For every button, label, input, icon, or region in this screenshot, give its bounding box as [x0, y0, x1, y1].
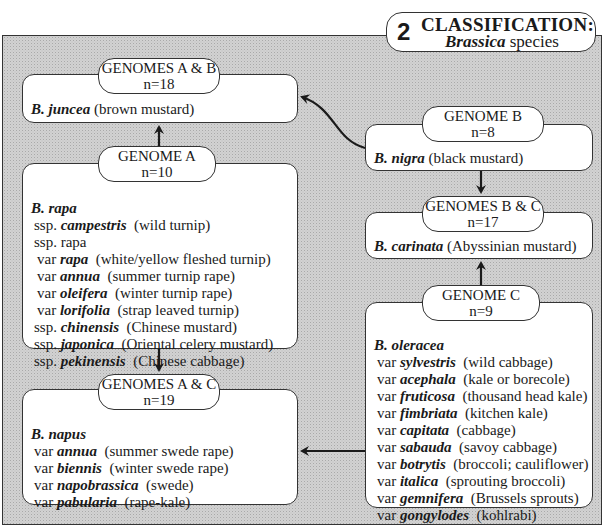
variety-item: var gongylodes (kohlrabi) — [374, 507, 589, 524]
node-species-line: B. carinata (Abyssinian mustard) — [374, 238, 577, 255]
node-label-genomes-ac: GENOMES A & C n=19 — [98, 374, 220, 410]
node-content: B. oleracea var sylvestris (wild cabbage… — [374, 337, 589, 524]
species-name: B. rapa — [31, 200, 273, 217]
variety-item: var botrytis (broccoli; cauliflower) — [374, 456, 589, 473]
node-species-line: B. nigra (black mustard) — [374, 150, 523, 167]
genome-label: GENOME B — [423, 108, 543, 124]
variety-rank: var — [377, 422, 400, 438]
variety-name: rapa — [60, 251, 88, 267]
variety-common-name: (cabbage) — [449, 422, 516, 438]
variety-rank: var — [377, 354, 400, 370]
variety-common-name: (strap leaved turnip) — [110, 302, 239, 318]
variety-name: fimbriata — [400, 405, 458, 421]
variety-name: capitata — [400, 422, 449, 438]
variety-item: var lorifolia (strap leaved turnip) — [31, 302, 273, 319]
variety-rank: ssp. rapa — [34, 234, 87, 250]
variety-rank: ssp. — [34, 336, 61, 352]
variety-item: ssp. chinensis (Chinese mustard) — [31, 319, 273, 336]
chromosome-count: n=17 — [423, 214, 543, 230]
variety-name: fruticosa — [400, 388, 455, 404]
variety-item: var pabularia (rape-kale) — [31, 494, 234, 511]
node-label-genomes-ab: GENOMES A & B n=18 — [98, 58, 220, 94]
chromosome-count: n=10 — [99, 164, 215, 180]
node-box-genome-c: B. oleracea var sylvestris (wild cabbage… — [365, 302, 593, 508]
variety-item: var annua (summer turnip rape) — [31, 268, 273, 285]
species-name: B. nigra — [374, 150, 425, 166]
variety-name: sabauda — [400, 439, 452, 455]
variety-common-name: (kale or borecole) — [456, 371, 570, 387]
variety-item: var gemnifera (Brussels sprouts) — [374, 490, 589, 507]
variety-name: sylvestris — [400, 354, 456, 370]
variety-item: var capitata (cabbage) — [374, 422, 589, 439]
variety-common-name: (kohlrabi) — [469, 507, 536, 523]
variety-item: var napobrassica (swede) — [31, 477, 234, 494]
title-subtitle: Brassica species — [445, 33, 559, 51]
variety-item: ssp. campestris (wild turnip) — [31, 217, 273, 234]
variety-common-name: (wild turnip) — [127, 217, 211, 233]
genome-label: GENOMES A & B — [99, 60, 219, 76]
node-species-line: B. juncea (brown mustard) — [31, 101, 194, 118]
variety-name: gongylodes — [400, 507, 469, 523]
variety-common-name: (winter swede rape) — [102, 460, 229, 476]
chromosome-count: n=19 — [99, 392, 219, 408]
variety-rank: var — [377, 456, 400, 472]
chromosome-count: n=9 — [423, 303, 539, 319]
genome-label: GENOMES B & C — [423, 198, 543, 214]
variety-rank: var — [377, 473, 400, 489]
variety-rank: var — [37, 285, 60, 301]
variety-common-name: (Oriental celery mustard) — [114, 336, 273, 352]
variety-common-name: (sprouting broccoli) — [438, 473, 565, 489]
variety-name: gemnifera — [400, 490, 463, 506]
species-name: B. carinata — [374, 238, 443, 254]
variety-item: var sylvestris (wild cabbage) — [374, 354, 589, 371]
variety-rank: ssp. — [34, 319, 61, 335]
node-label-genome-a: GENOME A n=10 — [98, 146, 216, 182]
variety-item: var acephala (kale or borecole) — [374, 371, 589, 388]
variety-name: pabularia — [57, 494, 117, 510]
variety-name: annua — [60, 268, 100, 284]
variety-list: var sylvestris (wild cabbage)var acephal… — [374, 354, 589, 524]
variety-list: var annua (summer swede rape)var biennis… — [31, 443, 234, 511]
variety-item: var fimbriata (kitchen kale) — [374, 405, 589, 422]
variety-item: ssp. japonica (Oriental celery mustard) — [31, 336, 273, 353]
variety-name: botrytis — [400, 456, 446, 472]
species-name: B. juncea — [31, 101, 90, 117]
variety-rank: var — [34, 443, 57, 459]
title-badge: 2 CLASSIFICATION: Brassica species — [386, 12, 596, 52]
variety-rank: var — [377, 371, 400, 387]
variety-common-name: (thousand head kale) — [455, 388, 587, 404]
variety-common-name: (summer swede rape) — [97, 443, 234, 459]
variety-name: pekinensis — [61, 353, 126, 369]
variety-item: var annua (summer swede rape) — [31, 443, 234, 460]
species-name: B. oleracea — [374, 337, 589, 354]
variety-rank: ssp. — [34, 353, 61, 369]
variety-common-name: (Chinese cabbage) — [126, 353, 245, 369]
genome-label: GENOME A — [99, 148, 215, 164]
variety-name: campestris — [61, 217, 127, 233]
variety-name: chinensis — [61, 319, 119, 335]
node-content: B. rapa ssp. campestris (wild turnip)ssp… — [31, 200, 273, 370]
variety-item: var sabauda (savoy cabbage) — [374, 439, 589, 456]
species-common-name: (brown mustard) — [90, 101, 194, 117]
variety-common-name: (broccoli; cauliflower) — [446, 456, 589, 472]
variety-rank: var — [34, 460, 57, 476]
variety-common-name: (savoy cabbage) — [452, 439, 557, 455]
variety-rank: var — [377, 405, 400, 421]
variety-rank: var — [34, 477, 57, 493]
variety-rank: var — [377, 388, 400, 404]
variety-name: japonica — [61, 336, 114, 352]
variety-common-name: (swede) — [139, 477, 194, 493]
variety-name: italica — [400, 473, 438, 489]
variety-name: annua — [57, 443, 97, 459]
title-genus: Brassica — [445, 32, 505, 51]
variety-list: ssp. campestris (wild turnip)ssp. rapava… — [31, 217, 273, 370]
variety-rank: var — [37, 251, 60, 267]
node-content: B. napus var annua (summer swede rape)va… — [31, 426, 234, 511]
variety-common-name: (wild cabbage) — [456, 354, 553, 370]
variety-common-name: (white/yellow fleshed turnip) — [88, 251, 270, 267]
variety-rank: var — [377, 439, 400, 455]
variety-item: ssp. rapa — [31, 234, 273, 251]
variety-item: var biennis (winter swede rape) — [31, 460, 234, 477]
chromosome-count: n=8 — [423, 124, 543, 140]
chromosome-count: n=18 — [99, 76, 219, 92]
